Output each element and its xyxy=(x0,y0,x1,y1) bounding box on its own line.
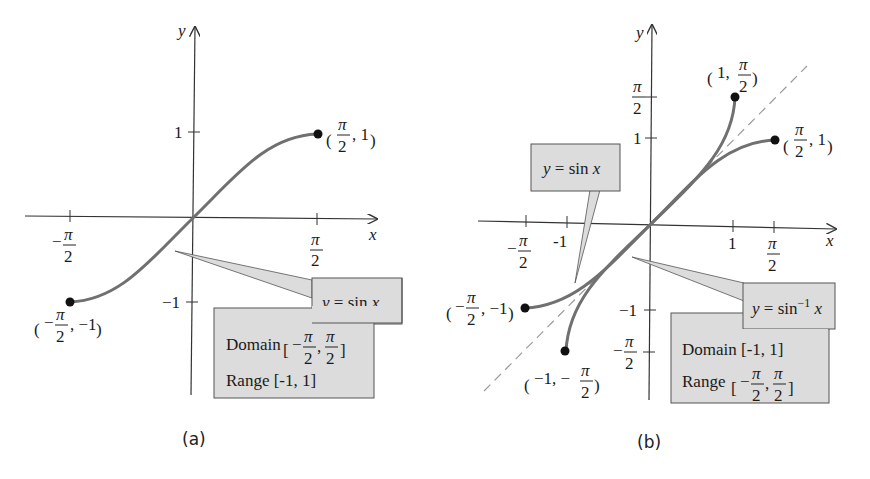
svg-text:π: π xyxy=(304,327,313,346)
y-axis xyxy=(649,25,652,400)
svg-text:, 1: , 1 xyxy=(352,125,369,144)
svg-text:): ) xyxy=(96,320,102,339)
svg-text:2: 2 xyxy=(633,99,642,118)
svg-text:π: π xyxy=(338,115,347,134)
svg-text:−: − xyxy=(292,335,302,354)
x-axis-label: x xyxy=(368,225,377,244)
panel-b: y x − π 2 -1 1 π 2 π 2 1 xyxy=(446,23,836,452)
x-axis xyxy=(478,221,836,229)
tick-label-y-neg1: −1 xyxy=(162,293,180,312)
y-axis-label: y xyxy=(176,21,186,40)
svg-text:π: π xyxy=(752,364,761,383)
svg-text:2: 2 xyxy=(64,247,73,266)
domain-text: Domain [-1, 1] xyxy=(682,340,784,359)
svg-text:−: − xyxy=(44,313,54,332)
endpoint-sin-bottom xyxy=(521,304,530,313)
caption-b: (b) xyxy=(637,432,661,452)
arcsin-callout-pointer xyxy=(632,257,744,301)
svg-text:, 1: , 1 xyxy=(809,130,826,149)
x-axis-label: x xyxy=(825,231,834,250)
sin-callout-pointer xyxy=(575,190,600,283)
arcsin-label: y = sin−1 x xyxy=(750,296,823,318)
svg-text:2: 2 xyxy=(581,383,590,402)
svg-text:2: 2 xyxy=(768,256,777,275)
svg-text:2: 2 xyxy=(338,137,347,156)
svg-text:]: ] xyxy=(788,379,794,398)
svg-text:Range: Range xyxy=(682,372,725,391)
figure-canvas: y x − π 2 π 2 1 −1 ( π 2 , 1 xyxy=(0,0,870,479)
svg-text:π: π xyxy=(64,225,73,244)
endpoint-arcsin-bottom xyxy=(561,347,570,356)
svg-text:π: π xyxy=(795,120,804,139)
svg-text:−: − xyxy=(507,239,517,258)
point-label-arcsin-top: ( 1, π 2 ) xyxy=(707,55,758,96)
svg-text:−: − xyxy=(740,372,750,391)
tick-label-y-1: 1 xyxy=(174,123,183,142)
svg-text:2: 2 xyxy=(56,327,65,346)
svg-text:[: [ xyxy=(731,379,737,398)
point-label-bottom: ( − π 2 , −1 ) xyxy=(34,305,102,346)
svg-text:2: 2 xyxy=(326,349,335,368)
endpoint-top xyxy=(314,130,323,139)
svg-text:π: π xyxy=(311,230,320,249)
svg-text:−: − xyxy=(52,232,62,251)
svg-text:2: 2 xyxy=(795,142,804,161)
svg-text:[: [ xyxy=(283,341,289,360)
tick-label-x-neg-half-pi: − π 2 xyxy=(507,231,531,272)
tick-label-y-neg-half-pi: − π 2 xyxy=(613,332,637,373)
svg-text:): ) xyxy=(752,69,758,88)
tick-label-x-half-pi: π 2 xyxy=(767,234,780,275)
svg-text:2: 2 xyxy=(467,310,476,329)
svg-text:]: ] xyxy=(340,341,346,360)
sin-label: y = sin x xyxy=(541,159,601,178)
svg-text:): ) xyxy=(508,304,514,323)
svg-text:): ) xyxy=(827,137,833,156)
svg-text:): ) xyxy=(370,131,376,150)
svg-text:2: 2 xyxy=(311,251,320,270)
point-label-top: ( π 2 , 1 ) xyxy=(326,115,376,156)
endpoint-sin-top xyxy=(771,136,780,145)
tick-label-y-1: 1 xyxy=(633,129,642,148)
svg-text:2: 2 xyxy=(752,386,761,405)
svg-text:(: ( xyxy=(524,376,530,395)
svg-text:2: 2 xyxy=(625,354,634,373)
svg-text:1,: 1, xyxy=(717,63,730,82)
point-label-sin-top: ( π 2 , 1 ) xyxy=(783,120,833,161)
svg-text:π: π xyxy=(56,305,65,324)
caption-a: (a) xyxy=(182,429,206,449)
endpoint-bottom xyxy=(66,298,75,307)
point-label-arcsin-bottom: ( −1, − π 2 ) xyxy=(524,361,600,402)
tick-label-y-neg1: −1 xyxy=(619,301,637,320)
svg-text:π: π xyxy=(739,55,748,74)
tick-label-x-neg1: -1 xyxy=(553,232,567,251)
point-label-sin-bottom: ( − π 2 , −1 ) xyxy=(446,288,514,329)
tick-label-half-pi: π 2 xyxy=(310,230,323,270)
svg-text:π: π xyxy=(519,231,528,250)
y-axis xyxy=(191,27,195,395)
svg-text:π: π xyxy=(625,332,634,351)
box-overlap-fill xyxy=(312,306,401,323)
svg-text:(: ( xyxy=(707,69,713,88)
svg-text:2: 2 xyxy=(304,349,313,368)
svg-text:2: 2 xyxy=(739,77,748,96)
svg-text:2: 2 xyxy=(774,386,783,405)
svg-text:π: π xyxy=(774,364,783,383)
svg-text:, −1: , −1 xyxy=(70,315,97,334)
svg-text:(: ( xyxy=(326,131,332,150)
svg-text:(: ( xyxy=(783,137,789,156)
svg-text:(: ( xyxy=(446,304,452,323)
y-axis-label: y xyxy=(634,23,644,42)
svg-text:−: − xyxy=(455,297,465,316)
svg-text:2: 2 xyxy=(519,253,528,272)
callout-pointer xyxy=(175,251,312,298)
svg-text:, −1: , −1 xyxy=(481,299,508,318)
box-overlap-fill xyxy=(672,329,828,332)
svg-text:Domain: Domain xyxy=(226,335,281,354)
svg-text:−1, −: −1, − xyxy=(534,369,570,388)
svg-text:π: π xyxy=(467,288,476,307)
svg-text:): ) xyxy=(594,376,600,395)
x-axis xyxy=(25,216,377,219)
svg-text:π: π xyxy=(633,77,642,96)
tick-label-x-1: 1 xyxy=(728,234,737,253)
tick-label-y-half-pi: π 2 xyxy=(632,77,645,118)
